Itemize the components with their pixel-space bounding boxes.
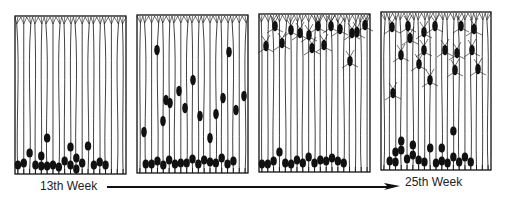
panel-4 (381, 12, 491, 170)
start-label: 13th Week (40, 179, 97, 193)
panel-2 (137, 15, 248, 173)
cortical-development-diagram (0, 0, 506, 203)
end-label: 25th Week (405, 175, 462, 189)
timeline-arrow (107, 183, 400, 190)
panels (15, 12, 491, 174)
panel-1 (15, 16, 126, 174)
panel-3 (258, 14, 373, 172)
